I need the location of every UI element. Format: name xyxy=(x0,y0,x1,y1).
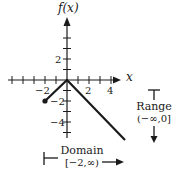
domain-arrow-right-icon xyxy=(116,159,124,166)
y-tick-label-neg4: −4 xyxy=(50,117,65,128)
domain-interval: [−2,∞) xyxy=(65,157,99,168)
range-arrow-down-icon xyxy=(151,136,158,143)
domain-annotation: Domain [−2,∞) xyxy=(44,144,124,168)
x-tick-label-2: 2 xyxy=(85,85,91,96)
y-axis-label: f(x) xyxy=(57,1,79,15)
x-tick-label-neg2: −2 xyxy=(35,85,50,96)
range-annotation: Range (−∞,0] xyxy=(136,90,172,143)
range-interval: (−∞,0] xyxy=(137,113,171,124)
function-graph: f(x) x −2 2 4 2 −2 −4 Range (−∞,0] Domai… xyxy=(0,0,174,172)
y-tick-label-neg2: −2 xyxy=(50,96,65,107)
closed-endpoint xyxy=(42,98,47,103)
x-tick-label-4: 4 xyxy=(107,85,113,96)
y-axis-arrow-icon xyxy=(64,17,71,26)
y-tick-label-2: 2 xyxy=(55,54,61,65)
x-axis-label: x xyxy=(126,70,133,84)
x-axis-arrow-icon xyxy=(113,77,121,84)
domain-label: Domain xyxy=(60,144,103,157)
range-label: Range xyxy=(136,100,172,113)
